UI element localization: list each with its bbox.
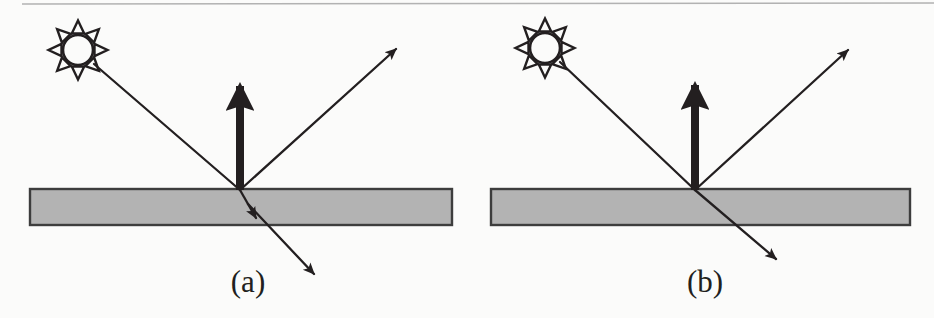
material-slab xyxy=(30,189,452,225)
sun-ray xyxy=(524,27,538,41)
sun-ray xyxy=(72,21,84,34)
sun-core xyxy=(530,33,560,63)
sun-ray xyxy=(562,42,575,54)
reflected-ray xyxy=(240,49,396,190)
sun-ray xyxy=(524,55,538,69)
figure-canvas: (a) (b) xyxy=(0,0,934,318)
sun-ray xyxy=(539,19,551,32)
figure-root: (a) (b) xyxy=(0,0,934,318)
incident-ray xyxy=(94,64,240,190)
sun-ray xyxy=(516,42,529,54)
panel-caption-b: (b) xyxy=(687,264,723,299)
scanner-artifact-line xyxy=(22,3,934,4)
sun-ray xyxy=(552,27,566,41)
panel-a: (a) xyxy=(30,21,452,300)
sun-icon xyxy=(49,21,108,80)
sun-ray xyxy=(85,29,99,43)
panel-caption-a: (a) xyxy=(231,264,265,299)
sun-ray xyxy=(57,29,71,43)
sun-ray xyxy=(95,44,108,56)
panel-b: (b) xyxy=(491,19,910,300)
sun-core xyxy=(63,35,93,65)
sun-ray xyxy=(85,57,99,71)
sun-ray xyxy=(72,67,84,80)
sun-ray xyxy=(49,44,62,56)
sun-ray xyxy=(539,65,551,78)
sun-icon xyxy=(516,19,575,78)
reflected-ray xyxy=(695,50,848,190)
sun-ray xyxy=(57,57,71,71)
incident-ray xyxy=(560,62,695,190)
